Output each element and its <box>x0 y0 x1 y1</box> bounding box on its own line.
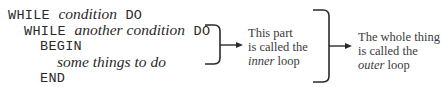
outer-emphasis: outer <box>358 58 384 72</box>
inner-loop-note: This part is called the inner loop <box>248 26 308 68</box>
inner-emphasis: inner <box>248 54 274 68</box>
inner-arrow-head-icon <box>236 42 243 48</box>
outer-note-line3: outer loop <box>358 58 440 72</box>
outer-bracket-icon <box>313 10 329 82</box>
inner-bracket-icon <box>205 25 220 64</box>
inner-note-loop: loop <box>274 54 299 68</box>
inner-note-line1: This part <box>248 26 308 40</box>
inner-note-line3: inner loop <box>248 54 308 68</box>
inner-note-line2: is called the <box>248 40 308 54</box>
outer-note-line2: is called the <box>358 44 440 58</box>
outer-note-line1: The whole thing <box>358 30 440 44</box>
outer-note-loop: loop <box>384 58 409 72</box>
outer-arrow-head-icon <box>345 43 352 49</box>
outer-loop-note: The whole thing is called the outer loop <box>358 30 440 72</box>
